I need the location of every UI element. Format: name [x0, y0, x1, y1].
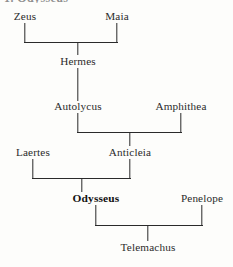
- connector-anticleia-up: [129, 132, 130, 146]
- connector-zeus-maia-bar: [24, 42, 118, 43]
- connector-hermes-up: [77, 42, 78, 55]
- connector-penelope-down: [201, 205, 202, 226]
- connector-odysseus-penelope-bar: [95, 225, 203, 226]
- node-laertes[interactable]: Laertes: [16, 146, 50, 158]
- clipped-heading-fragment: 1. Odysseus: [4, 0, 100, 3]
- connector-anticleia-down: [129, 159, 130, 179]
- node-penelope[interactable]: Penelope: [181, 192, 223, 204]
- node-telemachus[interactable]: Telemachus: [121, 241, 176, 253]
- connector-odysseus-down: [95, 205, 96, 226]
- node-autolycus[interactable]: Autolycus: [54, 100, 101, 112]
- genealogy-diagram: 1. Odysseus Zeus Maia Hermes Autolycus A…: [0, 0, 233, 267]
- connector-hermes-autolycus: [77, 68, 78, 101]
- node-amphithea[interactable]: Amphithea: [155, 100, 206, 112]
- node-odysseus[interactable]: Odysseus: [73, 192, 120, 204]
- node-hermes[interactable]: Hermes: [60, 55, 96, 67]
- connector-laertes-down: [32, 159, 33, 179]
- connector-odysseus-up: [81, 178, 82, 192]
- node-zeus[interactable]: Zeus: [14, 10, 36, 22]
- node-anticleia[interactable]: Anticleia: [109, 146, 151, 158]
- connector-amphithea-down: [180, 113, 181, 133]
- connector-maia-down: [116, 23, 117, 43]
- node-maia[interactable]: Maia: [105, 10, 129, 22]
- connector-telemachus-up: [147, 225, 148, 241]
- connector-autolycus-down: [77, 113, 78, 133]
- connector-zeus-down: [24, 23, 25, 43]
